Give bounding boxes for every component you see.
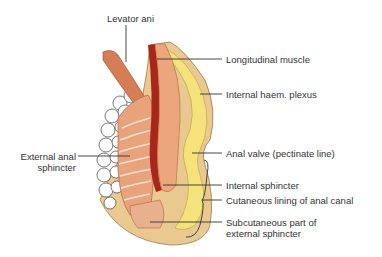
label-cutaneous-lining: Cutaneous lining of anal canal	[226, 195, 353, 206]
label-external-anal-sphincter: External anal sphincter	[6, 151, 76, 173]
anal-canal-illustration	[0, 0, 382, 257]
label-longitudinal-muscle: Longitudinal muscle	[226, 54, 310, 65]
label-anal-valve: Anal valve (pectinate line)	[226, 148, 335, 159]
label-subcutaneous-external-sphincter: Subcutaneous part of external sphincter	[226, 217, 316, 239]
label-line: external sphincter	[226, 228, 316, 239]
label-line: sphincter	[6, 162, 76, 173]
label-line: Subcutaneous part of	[226, 217, 316, 228]
label-internal-haem-plexus: Internal haem. plexus	[226, 89, 317, 100]
label-levator-ani: Levator ani	[107, 13, 154, 24]
label-internal-sphincter: Internal sphincter	[226, 180, 299, 191]
label-line: External anal	[6, 151, 76, 162]
